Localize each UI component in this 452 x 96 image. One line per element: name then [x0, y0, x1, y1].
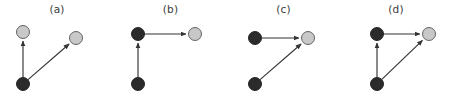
panel-b: (b) [114, 0, 227, 96]
panel-d: (d) [340, 0, 452, 96]
panel-a: (a) [0, 0, 114, 96]
panel-c: (c) [227, 0, 340, 96]
panel-label-d: (d) [340, 2, 452, 16]
panel-label-c: (c) [227, 2, 340, 16]
panel-label-a: (a) [0, 2, 114, 16]
graph-figure: (a)(b)(c)(d) [0, 0, 452, 96]
panel-label-b: (b) [114, 2, 227, 16]
